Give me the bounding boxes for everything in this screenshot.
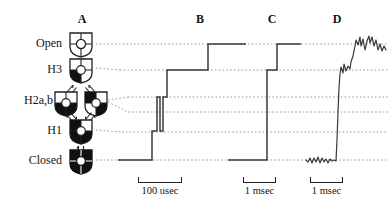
guide-lines [96,44,388,160]
scalebar-c-bar [243,177,276,183]
scalebar-d-caption: 1 msec [310,183,343,197]
scalebar-b-caption: 100 usec [138,183,182,197]
guide-line-h2a-in [108,97,128,100]
scalebar-d: 1 msec [310,177,343,197]
trace-panel-b [118,44,246,160]
state-icon-h2b [85,92,107,116]
trace-panel-d [306,36,386,163]
scalebar-b-bar [138,177,182,183]
trace-panel-c [228,44,301,160]
guide-line-h1-in [96,130,122,132]
state-icon-open [70,33,92,57]
scalebar-c: 1 msec [243,177,276,197]
state-icon-h3 [70,59,92,83]
figure-graphics [0,0,388,205]
figure-canvas: A B C D Open H3 H2a,b H1 Closed [0,0,388,205]
state-icon-h1 [70,120,92,144]
guide-line-h2b-in [108,102,128,112]
state-icon-h2a [55,92,77,116]
scalebar-c-caption: 1 msec [243,183,276,197]
guide-line-h3a [96,68,120,70]
state-icon-closed [70,150,92,174]
scalebar-d-bar [310,177,343,183]
scalebar-b: 100 usec [138,177,182,197]
